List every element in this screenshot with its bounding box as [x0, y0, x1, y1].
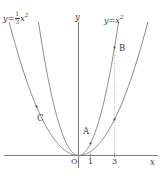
curve-label-x-squared: y=x2	[104, 15, 123, 25]
point-marker-d	[114, 119, 116, 121]
point-label-b: B	[119, 44, 125, 53]
x-tick-label-3: 3	[112, 158, 117, 166]
plot-canvas	[0, 0, 163, 176]
point-marker-b	[114, 47, 116, 49]
curve-label-one-third-x-squared: y=13x2	[3, 11, 28, 25]
x-tick-label-1: 1	[88, 158, 93, 166]
fraction-denominator: 3	[15, 19, 20, 25]
one-third-fraction: 13	[15, 11, 20, 25]
point-marker-a	[90, 143, 92, 145]
y-axis-label: y	[75, 13, 80, 22]
fraction-numerator: 1	[15, 11, 20, 17]
curve-label-left-exponent: 2	[25, 12, 29, 18]
curve-label-right-exponent: 2	[120, 14, 124, 20]
curve-label-left-equals: =	[8, 14, 15, 23]
x-axis-label: x	[150, 158, 155, 167]
parabola-figure: y x O 1 3 y=13x2 y=x2 A B C	[0, 0, 163, 176]
origin-label: O	[71, 158, 78, 166]
point-label-a: A	[83, 127, 89, 136]
point-label-c: C	[37, 114, 44, 123]
point-marker-c	[36, 106, 38, 108]
